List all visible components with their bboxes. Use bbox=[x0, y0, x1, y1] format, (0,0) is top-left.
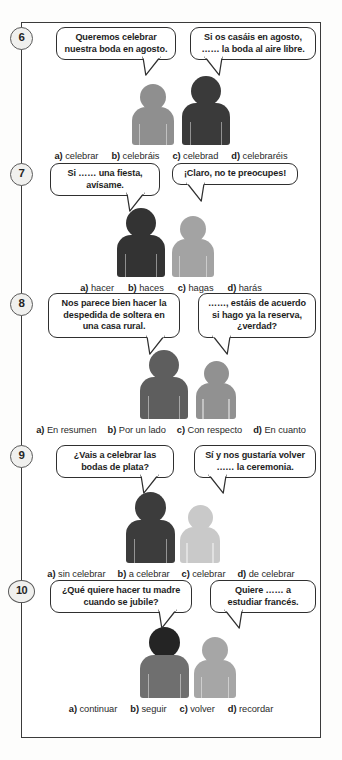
person-body bbox=[180, 527, 220, 563]
person-silhouette-left bbox=[140, 350, 188, 419]
person-body bbox=[117, 235, 165, 277]
answer-options: a) celebrarb) celebráisc) celebradd) cel… bbox=[22, 151, 320, 161]
person-silhouette-right bbox=[194, 637, 236, 698]
figure-group bbox=[22, 213, 320, 277]
answer-option-text: celebrar bbox=[63, 151, 99, 161]
answer-option-text: de celebrar bbox=[246, 569, 295, 579]
speech-bubble-line: Si os casáis en agosto, bbox=[196, 32, 310, 44]
figure-group bbox=[22, 355, 320, 419]
answer-option-key: c) bbox=[180, 704, 188, 714]
answer-option-key: c) bbox=[172, 151, 180, 161]
answer-option-key: a) bbox=[69, 704, 77, 714]
speech-bubble-line: una casa rural. bbox=[54, 321, 174, 333]
speech-bubble-line: ¿Vais a celebrar las bbox=[62, 450, 168, 462]
answer-option-b[interactable]: b) celebráis bbox=[111, 151, 159, 161]
exercise-item-10: 10¿Qué quiere hacer tu madrecuando se ju… bbox=[22, 580, 320, 714]
answer-option-text: sin celebrar bbox=[56, 569, 106, 579]
speech-bubble-left: Nos parece bien hacer ladespedida de sol… bbox=[48, 293, 180, 338]
speech-bubble-line: ¿verdad? bbox=[204, 321, 310, 333]
speech-bubble-line: si hago ya la reserva, bbox=[204, 310, 310, 322]
answer-options: a) En resumenb) Por un ladoc) Con respec… bbox=[22, 425, 320, 435]
speech-bubble-line: Quiere …… a bbox=[216, 585, 310, 597]
answer-option-text: hagas bbox=[186, 283, 214, 293]
answer-option-text: continuar bbox=[77, 704, 117, 714]
answer-options: a) hacerb) hacesc) hagasd) harás bbox=[22, 283, 320, 293]
speech-bubble-tail-down-right bbox=[140, 474, 160, 494]
answer-option-key: d) bbox=[253, 425, 262, 435]
speech-bubble-tail-down-left bbox=[186, 182, 206, 202]
person-silhouette-left bbox=[132, 84, 174, 145]
answer-option-a[interactable]: a) hacer bbox=[80, 283, 114, 293]
answer-option-text: hacer bbox=[88, 283, 114, 293]
item-number-badge-6: 6 bbox=[10, 27, 33, 50]
exercise-item-7: 7Si …… una fiesta,avísame.¡Claro, no te … bbox=[22, 163, 320, 293]
answer-option-b[interactable]: b) Por un lado bbox=[108, 425, 166, 435]
answer-option-text: celebrad bbox=[181, 151, 219, 161]
speech-bubble-line: estudiar francés. bbox=[216, 597, 310, 609]
speech-bubble-tail-down-right bbox=[142, 56, 162, 76]
answer-option-c[interactable]: c) volver bbox=[180, 704, 215, 714]
answer-option-key: b) bbox=[108, 425, 117, 435]
answer-option-c[interactable]: c) hagas bbox=[178, 283, 214, 293]
answer-option-text: celebráis bbox=[120, 151, 159, 161]
answer-options: a) continuarb) seguirc) volverd) recorda… bbox=[22, 704, 320, 714]
speech-bubble-line: Queremos celebrar bbox=[62, 32, 170, 44]
person-head bbox=[191, 76, 221, 106]
figure-group bbox=[22, 634, 320, 698]
speech-bubble-tail-down-right bbox=[158, 609, 178, 629]
exercise-item-9: 9¿Vais a celebrar lasbodas de plata?Sí y… bbox=[22, 445, 320, 579]
answer-option-b[interactable]: b) haces bbox=[128, 283, 164, 293]
speech-bubble-tail-down-left bbox=[224, 609, 244, 629]
item-number-badge-9: 9 bbox=[10, 445, 33, 468]
answer-option-text: En resumen bbox=[44, 425, 96, 435]
answer-option-c[interactable]: c) Con respecto bbox=[177, 425, 242, 435]
answer-option-d[interactable]: d) recordar bbox=[228, 704, 273, 714]
answer-option-text: celebraréis bbox=[240, 151, 287, 161]
answer-option-key: d) bbox=[237, 569, 246, 579]
person-body bbox=[140, 377, 188, 419]
answer-option-d[interactable]: d) celebraréis bbox=[231, 151, 287, 161]
answer-option-b[interactable]: b) seguir bbox=[130, 704, 166, 714]
answer-option-a[interactable]: a) celebrar bbox=[54, 151, 98, 161]
exercise-items: 6Queremos celebrarnuestra boda en agosto… bbox=[22, 23, 320, 737]
answer-option-d[interactable]: d) harás bbox=[228, 283, 262, 293]
answer-option-a[interactable]: a) sin celebrar bbox=[47, 569, 105, 579]
speech-bubble-line: nuestra boda en agosto. bbox=[62, 44, 170, 56]
person-silhouette-left bbox=[117, 208, 165, 277]
item-number-badge-8: 8 bbox=[10, 293, 33, 316]
person-silhouette-right bbox=[172, 216, 214, 277]
answer-option-b[interactable]: b) a celebrar bbox=[118, 569, 170, 579]
answer-option-key: a) bbox=[54, 151, 62, 161]
answer-options: a) sin celebrarb) a celebrarc) celebrard… bbox=[22, 569, 320, 579]
answer-option-text: a celebrar bbox=[126, 569, 169, 579]
answer-option-key: a) bbox=[47, 569, 55, 579]
speech-bubble-line: ¡Claro, no te preocupes! bbox=[178, 168, 292, 180]
exercise-item-8: 8Nos parece bien hacer ladespedida de so… bbox=[22, 293, 320, 435]
answer-option-d[interactable]: d) En cuanto bbox=[253, 425, 306, 435]
answer-option-c[interactable]: c) celebrad bbox=[172, 151, 218, 161]
speech-bubble-line: Si …… una fiesta, bbox=[56, 168, 154, 180]
answer-option-key: d) bbox=[228, 283, 237, 293]
answer-option-d[interactable]: d) de celebrar bbox=[237, 569, 294, 579]
speech-bubble-line: Nos parece bien hacer la bbox=[54, 298, 174, 310]
speech-bubbles: Si …… una fiesta,avísame.¡Claro, no te p… bbox=[22, 163, 320, 198]
answer-option-a[interactable]: a) En resumen bbox=[36, 425, 96, 435]
figure-group bbox=[22, 499, 320, 563]
answer-option-key: b) bbox=[118, 569, 127, 579]
answer-option-text: En cuanto bbox=[262, 425, 306, 435]
speech-bubble-right: ……, estáis de acuerdosi hago ya la reser… bbox=[198, 293, 316, 338]
answer-option-c[interactable]: c) celebrar bbox=[182, 569, 226, 579]
speech-bubble-line: bodas de plata? bbox=[62, 462, 168, 474]
person-body bbox=[140, 655, 189, 698]
speech-bubble-tail-down-right bbox=[146, 335, 166, 355]
speech-bubble-line: cuando se jubile? bbox=[56, 597, 186, 609]
answer-option-key: c) bbox=[177, 425, 185, 435]
person-silhouette-right bbox=[182, 76, 230, 145]
person-body bbox=[182, 103, 230, 145]
speech-bubbles: ¿Qué quiere hacer tu madrecuando se jubi… bbox=[22, 580, 320, 615]
speech-bubbles: ¿Vais a celebrar lasbodas de plata?Sí y … bbox=[22, 445, 320, 480]
person-body bbox=[172, 239, 214, 277]
answer-option-text: seguir bbox=[139, 704, 167, 714]
person-body bbox=[194, 660, 236, 698]
answer-option-a[interactable]: a) continuar bbox=[69, 704, 118, 714]
